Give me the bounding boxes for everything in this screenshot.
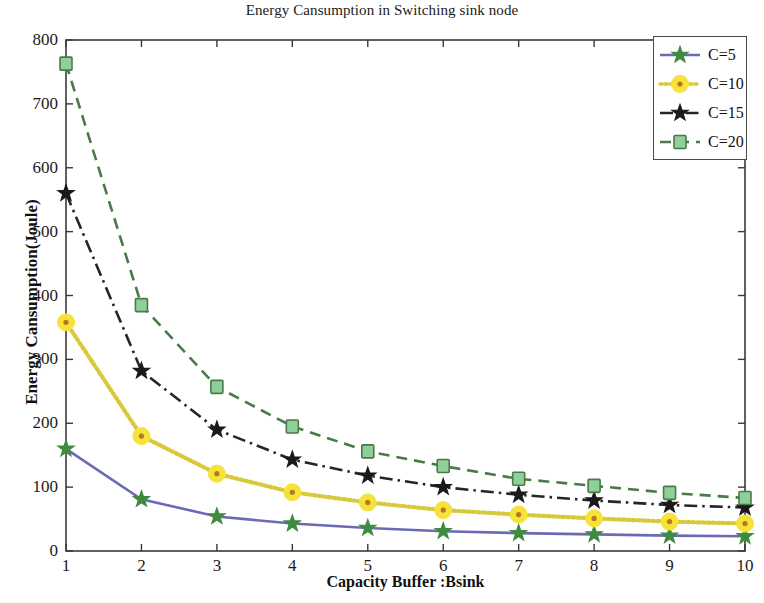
- data-point-marker-star: [672, 47, 688, 62]
- legend-item-c-5: C=5: [704, 43, 736, 67]
- data-point-marker-circle-core: [365, 500, 370, 505]
- data-point-marker-circle-core: [667, 519, 672, 524]
- legend-marker: [672, 105, 688, 120]
- data-point-marker-square: [362, 445, 374, 458]
- data-point-marker-circle-core: [63, 320, 68, 325]
- legend-item-c-20: C=20: [704, 130, 744, 154]
- data-point-marker-square: [588, 479, 600, 492]
- data-point-marker-circle-core: [214, 471, 219, 476]
- data-point-marker-circle-core: [677, 81, 682, 86]
- plot-canvas: [0, 0, 764, 603]
- data-point-marker-square: [135, 299, 147, 312]
- legend: C=5C=10C=15C=20: [653, 36, 747, 160]
- legend-item-c-10: C=10: [704, 72, 744, 96]
- x-axis-label: Capacity Buffer :Bsink: [66, 573, 745, 591]
- data-point-marker-square: [664, 486, 676, 499]
- chart-figure: Energy Cansumption in Switching sink nod…: [0, 0, 764, 603]
- plot-frame: [66, 40, 745, 551]
- legend-label: C=15: [708, 104, 744, 122]
- data-point-marker-circle-core: [290, 490, 295, 495]
- data-point-marker-circle-core: [592, 516, 597, 521]
- data-point-marker-star: [672, 105, 688, 120]
- data-point-marker-square: [60, 57, 72, 70]
- data-point-marker-square: [211, 380, 223, 393]
- data-point-marker-square: [739, 491, 751, 504]
- data-point-marker-square: [286, 420, 298, 433]
- legend-marker: [672, 76, 689, 93]
- data-point-marker-circle-core: [441, 508, 446, 513]
- legend-label: C=20: [708, 133, 744, 151]
- legend-label: C=10: [708, 75, 744, 93]
- legend-label: C=5: [708, 46, 736, 64]
- data-point-marker-circle-core: [742, 521, 747, 526]
- legend-item-c-15: C=15: [704, 101, 744, 125]
- data-point-marker-square: [513, 472, 525, 485]
- legend-marker: [672, 47, 688, 62]
- data-point-marker-square: [437, 460, 449, 473]
- legend-marker: [674, 136, 686, 149]
- data-point-marker-square: [674, 136, 686, 149]
- data-point-marker-circle-core: [139, 433, 144, 438]
- data-point-marker-circle-core: [516, 512, 521, 517]
